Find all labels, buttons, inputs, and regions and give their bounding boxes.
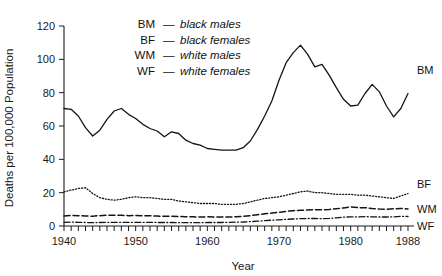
legend-description-bf: black females [180, 34, 251, 46]
legend-key-wf: WF [137, 65, 155, 77]
y-tick-label: 60 [43, 120, 55, 132]
y-tick-label: 120 [37, 20, 55, 32]
chart-container: 020406080100120 194019501960197019801988… [0, 0, 442, 276]
y-tick-label: 100 [37, 53, 55, 65]
x-tick-label: 1950 [123, 235, 147, 247]
y-tick-label: 0 [49, 220, 55, 232]
legend-description-wm: white males [180, 49, 241, 61]
x-axis-title: Year [231, 260, 254, 272]
series-line-wm [64, 207, 408, 217]
x-tick-label: 1970 [267, 235, 291, 247]
x-axis-ticks [64, 226, 408, 231]
chart-legend: BM—black malesBF—black femalesWM—white m… [135, 18, 251, 77]
series-line-bf [64, 188, 408, 205]
series-end-label-bm: BM [417, 64, 434, 76]
series-end-labels: BMBFWMWF [417, 64, 437, 232]
series-end-label-wm: WM [417, 203, 437, 215]
y-axis-tick-labels: 020406080100120 [37, 20, 55, 232]
legend-dash-wf: — [163, 65, 175, 77]
x-tick-label: 1940 [52, 235, 76, 247]
y-tick-label: 40 [43, 153, 55, 165]
legend-dash-bm: — [163, 18, 175, 30]
x-tick-label: 1980 [338, 235, 362, 247]
series-end-label-wf: WF [417, 220, 434, 232]
legend-key-wm: WM [135, 49, 155, 61]
legend-dash-wm: — [163, 49, 175, 61]
y-tick-label: 20 [43, 187, 55, 199]
y-axis-ticks [59, 26, 64, 226]
legend-dash-bf: — [163, 34, 175, 46]
line-chart-svg: 020406080100120 194019501960197019801988… [0, 0, 442, 276]
legend-description-wf: white females [180, 65, 251, 77]
legend-key-bf: BF [140, 34, 155, 46]
legend-description-bm: black males [180, 18, 241, 30]
x-tick-label: 1988 [396, 235, 420, 247]
series-end-label-bf: BF [417, 178, 431, 190]
legend-key-bm: BM [138, 18, 155, 30]
x-axis-tick-labels: 194019501960197019801988 [52, 235, 420, 247]
y-tick-label: 80 [43, 87, 55, 99]
y-axis-title: Deaths per 100,000 Population [3, 49, 15, 208]
x-tick-label: 1960 [195, 235, 219, 247]
